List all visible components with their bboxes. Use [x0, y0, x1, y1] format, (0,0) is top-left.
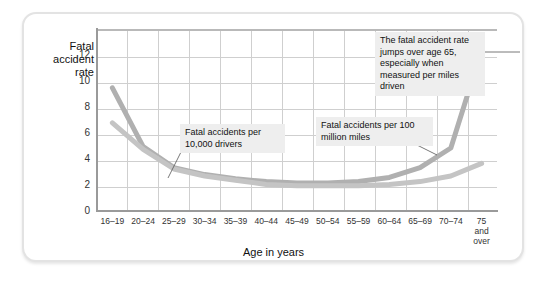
gridline-vertical: [127, 31, 128, 211]
annotation-age-jump: The fatal accident rate jumps over age 6…: [375, 32, 485, 96]
y-tick-label: 8: [64, 101, 90, 112]
y-tick-label: 0: [64, 205, 90, 216]
y-axis-line: [96, 28, 98, 212]
x-tick-label: 30–34: [189, 216, 220, 226]
gridline-vertical: [282, 31, 283, 211]
gridline-vertical: [189, 31, 190, 211]
annotation-per-100-million-miles: Fatal accidents per 100 million miles: [316, 117, 433, 146]
x-tick-label: 70–74: [435, 216, 466, 226]
x-tick-label: 35–39: [220, 216, 251, 226]
gridline-vertical: [220, 31, 221, 211]
gridline-vertical: [251, 31, 252, 211]
x-tick-label: 50–54: [312, 216, 343, 226]
x-axis-title: Age in years: [0, 246, 547, 258]
x-tick-label: 65–69: [405, 216, 436, 226]
x-tick-label: 20–24: [128, 216, 159, 226]
x-tick-label: 60–64: [374, 216, 405, 226]
x-tick-label: 55–59: [343, 216, 374, 226]
gridline-vertical: [158, 31, 159, 211]
y-tick-label: 10: [64, 75, 90, 86]
x-tick-label: 45–49: [282, 216, 313, 226]
y-tick-label: 12: [64, 49, 90, 60]
chart-page: Fatal accident rate 12 10 8 6 4: [0, 0, 547, 284]
x-tick-label: 40–44: [251, 216, 282, 226]
x-tick-label: 75 and over: [466, 216, 497, 246]
y-tick-label: 2: [64, 179, 90, 190]
gridline-vertical: [313, 31, 314, 211]
y-tick-label: 6: [64, 127, 90, 138]
x-tick-label: 25–29: [159, 216, 190, 226]
annotation-per-10000-drivers: Fatal accidents per 10,000 drivers: [180, 124, 285, 153]
x-axis-line: [96, 210, 498, 212]
y-tick-label: 4: [64, 153, 90, 164]
x-tick-label: 16–19: [97, 216, 128, 226]
